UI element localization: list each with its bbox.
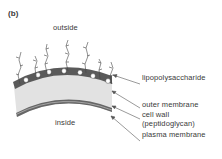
leader-lines [111,75,140,142]
lipopolysaccharide-label: lipopolysaccharide [142,74,206,82]
outer-membrane-label: outer membrane [142,101,198,109]
inside-label: inside [55,119,75,127]
plasma-membrane-label: plasma membrane [142,131,206,139]
peptidoglycan-label: (peptidoglycan) [142,120,195,128]
panel-label: (b) [8,10,19,18]
outside-label: outside [53,24,78,32]
cell-wall-label: cell wall [142,111,169,119]
